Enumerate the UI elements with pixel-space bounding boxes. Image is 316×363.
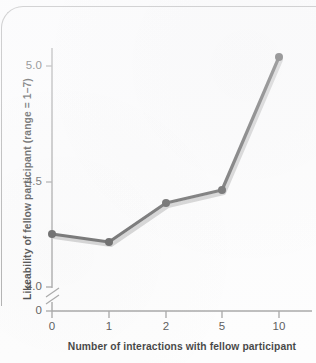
y-axis-break-marker [46, 288, 59, 304]
line-chart-plot [0, 0, 316, 363]
x-tick-label-1: 1 [95, 320, 123, 332]
data-point-1[interactable] [105, 238, 113, 246]
data-point-5[interactable] [218, 186, 226, 194]
data-point-markers [48, 53, 283, 246]
data-point-10[interactable] [275, 53, 283, 61]
x-tick-label-5: 5 [208, 320, 236, 332]
x-tick-label-0: 0 [38, 320, 66, 332]
x-tick-label-10: 10 [265, 320, 293, 332]
x-axis-label: Number of interactions with fellow parti… [52, 341, 312, 352]
x-axis-ticks [52, 311, 279, 318]
data-point-2[interactable] [162, 199, 170, 207]
data-point-0[interactable] [48, 230, 56, 238]
x-tick-label-2: 2 [152, 320, 180, 332]
y-tick-label-5.0: 5.0 [8, 59, 42, 71]
y-axis-label: Likeability of fellow participant (range… [22, 78, 33, 300]
data-line-shadow [54, 60, 281, 245]
y-tick-label-0: 0 [8, 304, 42, 316]
y-axis-ticks [46, 66, 52, 311]
data-line [52, 57, 279, 242]
figure-container: 5.0 4.5 4.0 0 0 1 2 5 10 Likeability of … [0, 0, 316, 363]
